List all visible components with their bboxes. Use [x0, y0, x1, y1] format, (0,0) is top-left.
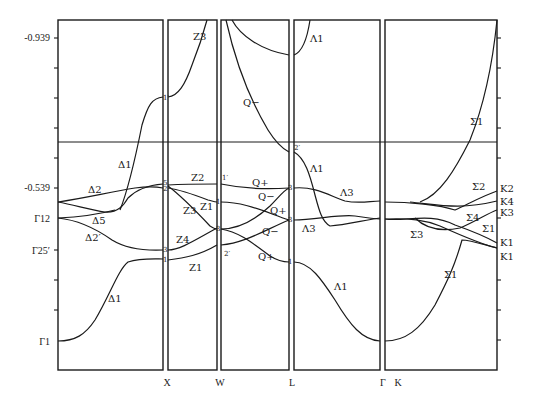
- band-label: Σ4: [466, 212, 479, 223]
- x-point-label: K: [394, 377, 402, 388]
- sym-label: 3: [288, 184, 292, 192]
- band-label: Z4: [176, 234, 189, 245]
- panel-l-gamma: [294, 20, 380, 370]
- band-label: Q−: [243, 97, 260, 108]
- band-label: Σ1: [470, 116, 483, 127]
- sym-label: 2: [163, 185, 167, 193]
- sym-label: 1: [163, 256, 167, 264]
- band-label: Δ1: [118, 159, 132, 170]
- bands-z: [168, 20, 217, 260]
- sym-label: 1: [288, 258, 292, 266]
- band-label: Q+: [258, 251, 275, 262]
- bands-delta: [58, 97, 163, 341]
- band-label: Δ2: [88, 184, 102, 195]
- y-tick-label: -0.539: [24, 182, 50, 193]
- band-label: Λ3: [339, 187, 354, 198]
- band-label: Σ1: [482, 223, 495, 234]
- k-label: K2: [500, 183, 514, 194]
- k-label: K3: [500, 207, 514, 218]
- band-label: Z1: [189, 262, 202, 273]
- y-tick-label: -0.939: [24, 32, 50, 43]
- sym-label: 1′: [222, 174, 228, 182]
- panel-k-gamma: [385, 20, 497, 370]
- panel-frames: [58, 20, 497, 370]
- band-label: Λ1: [333, 281, 348, 292]
- x-point-label: W: [215, 377, 225, 388]
- band-label: Q−: [262, 226, 279, 237]
- band-label: Λ3: [301, 223, 316, 234]
- band-label: Z3: [193, 31, 206, 42]
- k-label: K1: [500, 237, 514, 248]
- x-point-label: Γ: [380, 377, 386, 388]
- bands-lambda: [294, 20, 380, 341]
- sym-label: 1′: [163, 94, 169, 102]
- sym-label: 2′: [224, 250, 230, 258]
- sym-label: 2′: [294, 144, 300, 152]
- band-label: Z2: [191, 172, 204, 183]
- sym-label: 3: [288, 216, 292, 224]
- y-tick-label: Γ12: [34, 213, 50, 224]
- band-label: Δ5: [92, 215, 106, 226]
- band-structure-diagram: -0.939 -0.539 Γ12 Γ25′ Γ1 X W L Γ K Δ1 Δ…: [0, 0, 537, 400]
- band-label: Δ2′: [85, 232, 102, 243]
- x-point-label: X: [163, 377, 171, 388]
- panel-gamma-x: [58, 20, 163, 370]
- band-label: Λ1: [309, 33, 324, 44]
- k-label: K1: [500, 251, 514, 262]
- band-label: Z3: [183, 205, 196, 216]
- band-label: Q+: [252, 177, 269, 188]
- band-label: Σ3: [410, 229, 423, 240]
- band-label: Q+: [270, 205, 287, 216]
- band-label: Δ1: [108, 293, 122, 304]
- band-label: Σ2: [472, 181, 485, 192]
- panel-w-l: [221, 20, 289, 370]
- sym-label: 3: [163, 246, 167, 254]
- k-label: K4: [500, 196, 514, 207]
- band-label: Σ1: [444, 269, 457, 280]
- sym-label: 1: [216, 198, 220, 206]
- y-tick-label: Γ25′: [32, 245, 50, 256]
- bands-q: [221, 20, 289, 262]
- band-label: Λ1: [309, 163, 324, 174]
- sym-label: 3: [216, 225, 220, 233]
- x-point-label: L: [289, 377, 295, 388]
- band-label: Q−: [258, 191, 275, 202]
- band-label: Z1: [200, 201, 213, 212]
- y-tick-label: Γ1: [39, 336, 50, 347]
